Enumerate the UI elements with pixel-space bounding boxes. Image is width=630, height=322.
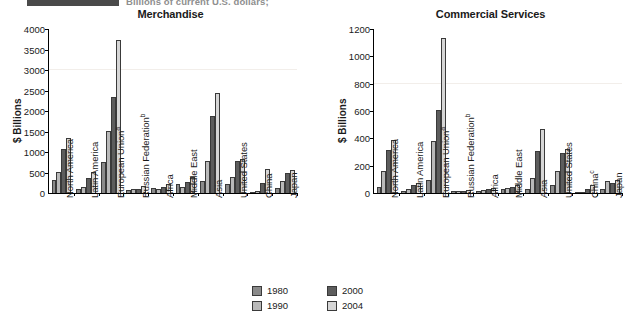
legend-swatch	[252, 286, 262, 296]
y-axis-title: $ Billions	[337, 99, 348, 143]
x-axis-label: Latin America	[89, 142, 100, 198]
y-tick-label: 800	[354, 78, 370, 89]
plot-area: 05001000150020002500300035004000	[48, 29, 297, 194]
x-axis-label: Middle East	[188, 149, 199, 198]
y-tick-label: 1000	[349, 51, 370, 62]
header-subtitle: Billions of current U.S. dollars;	[126, 0, 269, 7]
bars	[476, 29, 496, 193]
bar-group	[250, 29, 270, 193]
x-axis-label: United States	[238, 142, 249, 198]
x-axis-label: Middle East	[513, 149, 524, 198]
y-tick-label: 0	[40, 188, 45, 199]
x-axis-label: European Uniona	[114, 127, 126, 198]
y-axis-title: $ Billions	[12, 99, 23, 143]
legend-label: 2004	[342, 301, 363, 311]
bar-group	[600, 29, 620, 193]
header-rule	[27, 0, 119, 6]
y-tick-label: 500	[29, 167, 45, 178]
y-tick-label: 400	[354, 133, 370, 144]
y-tick-label: 1500	[24, 126, 45, 137]
legend-label: 1980	[267, 286, 288, 296]
y-tick-mark	[370, 138, 374, 139]
legend-label: 2000	[342, 286, 363, 296]
y-tick-label: 0	[365, 188, 370, 199]
legend-swatch	[327, 301, 337, 311]
chart-panel-merchandise: Merchandise$ Billions0500100015002000250…	[0, 8, 315, 298]
y-tick-label: 2500	[24, 85, 45, 96]
x-axis-label: Japan	[288, 173, 299, 198]
legend-label: 1990	[267, 301, 288, 311]
y-tick-label: 1200	[349, 24, 370, 35]
x-axis-label: North America	[389, 139, 400, 198]
bars	[200, 29, 220, 193]
chart-title: Merchandise	[0, 8, 315, 20]
plot-area: 020040060080010001200	[373, 29, 622, 194]
bars	[250, 29, 270, 193]
y-tick-label: 3500	[24, 44, 45, 55]
y-tick-mark	[370, 56, 374, 57]
y-tick-mark	[370, 84, 374, 85]
chart-title: Commercial Services	[315, 8, 630, 20]
legend-item-2000: 2000	[327, 286, 384, 296]
legend-item-1990: 1990	[252, 301, 309, 311]
y-tick-label: 3000	[24, 65, 45, 76]
bar-group	[275, 29, 295, 193]
x-axis-label: Africa	[164, 174, 175, 198]
y-tick-mark	[45, 70, 49, 71]
y-tick-mark	[45, 111, 49, 112]
chart-panel-commercial-services: Commercial Services$ Billions02004006008…	[315, 8, 630, 298]
x-axis-label: Japan	[613, 173, 624, 198]
y-tick-label: 1000	[24, 147, 45, 158]
y-tick-mark	[370, 166, 374, 167]
y-tick-label: 200	[354, 160, 370, 171]
bar	[215, 93, 220, 193]
legend-item-1980: 1980	[252, 286, 309, 296]
y-tick-mark	[45, 50, 49, 51]
x-axis-label: United States	[563, 142, 574, 198]
bar-group	[151, 29, 171, 193]
x-axis-label: Latin America	[414, 142, 425, 198]
y-tick-mark	[45, 132, 49, 133]
x-axis-label: China	[263, 174, 274, 198]
x-axis-label: North America	[64, 139, 75, 198]
y-tick-mark	[45, 173, 49, 174]
x-axis-label: European Uniona	[439, 127, 451, 198]
x-axis-label: Asia	[538, 180, 549, 198]
y-tick-label: 600	[354, 106, 370, 117]
bars	[525, 29, 545, 193]
x-axis-label: Russian Federationb	[464, 114, 476, 198]
legend-swatch	[327, 286, 337, 296]
x-axis-label: Chinac	[588, 170, 600, 198]
x-axis-label: Africa	[489, 174, 500, 198]
y-tick-label: 4000	[24, 24, 45, 35]
y-tick-mark	[370, 29, 374, 30]
bars	[575, 29, 595, 193]
y-tick-mark	[45, 152, 49, 153]
bar-group	[476, 29, 496, 193]
chart-legend: 1980200019902004	[252, 286, 384, 311]
y-tick-mark	[370, 111, 374, 112]
bars	[275, 29, 295, 193]
x-axis-label: Russian Federationb	[139, 114, 151, 198]
legend-item-2004: 2004	[327, 301, 384, 311]
legend-swatch	[252, 301, 262, 311]
y-tick-mark	[45, 29, 49, 30]
x-axis-label: Asia	[213, 180, 224, 198]
y-tick-label: 2000	[24, 106, 45, 117]
bars	[151, 29, 171, 193]
bars	[600, 29, 620, 193]
y-tick-mark	[45, 91, 49, 92]
bar-group	[525, 29, 545, 193]
bar-group	[200, 29, 220, 193]
bar-group	[575, 29, 595, 193]
